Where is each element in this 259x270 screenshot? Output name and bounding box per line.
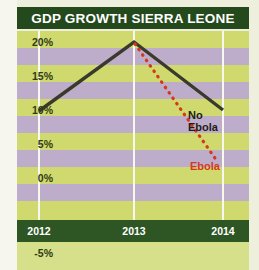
series-label-no-ebola: NoEbola	[188, 109, 218, 133]
no-ebola-line2: Ebola	[188, 121, 218, 133]
series-no-ebola-line	[39, 42, 223, 111]
chart-root: GDP GROWTH SIERRA LEONE 20% 15% 10% 5% 0…	[0, 0, 259, 270]
no-ebola-line1: No	[188, 109, 203, 121]
y-tick-label: 15%	[17, 71, 53, 81]
x-axis-bar: 2012 2013 2014	[17, 220, 249, 242]
chart-title-bar: GDP GROWTH SIERRA LEONE	[17, 7, 249, 29]
x-tick-label-2014: 2014	[196, 225, 250, 237]
series-label-ebola: Ebola	[190, 160, 220, 172]
y-tick-label-negative: -5%	[17, 247, 53, 259]
x-tick-label-2012: 2012	[12, 225, 66, 237]
y-tick-label: 20%	[17, 37, 53, 47]
y-tick-label: 10%	[17, 105, 53, 115]
series-ebola-line	[135, 44, 217, 161]
page-title: GDP GROWTH SIERRA LEONE	[31, 11, 234, 26]
y-axis-labels: 20% 15% 10% 5% 0%	[17, 31, 55, 220]
y-tick-label: 0%	[17, 173, 53, 183]
x-tick-label-2013: 2013	[107, 225, 161, 237]
y-tick-label: 5%	[17, 139, 53, 149]
